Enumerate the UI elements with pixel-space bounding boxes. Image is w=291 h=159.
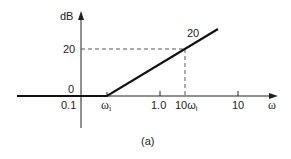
y-axis-label: dB bbox=[60, 10, 73, 22]
figure-caption: (a) bbox=[141, 135, 154, 147]
y-tick-20: 20 bbox=[63, 43, 75, 55]
x-tick-wi: ωi bbox=[101, 98, 112, 113]
line-annotation: 20 bbox=[187, 27, 199, 39]
x-axis-label: ω bbox=[268, 98, 276, 112]
y-axis-arrow-icon bbox=[78, 11, 84, 20]
x-tick-01: 0.1 bbox=[61, 99, 76, 111]
bode-chart: dB 20 0 0.1 ωi 1.0 10ωi 10 ω 20 (a) bbox=[0, 0, 291, 159]
x-tick-10: 10 bbox=[232, 99, 244, 111]
x-tick-1: 1.0 bbox=[151, 99, 166, 111]
magnitude-asymptote bbox=[17, 29, 218, 96]
y-tick-0: 0 bbox=[68, 83, 74, 95]
x-tick-10wi: 10ωi bbox=[175, 99, 198, 113]
